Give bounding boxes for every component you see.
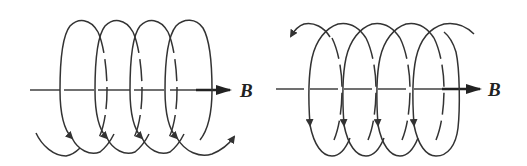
field-label-b: B xyxy=(488,80,501,99)
left-helix-drawing xyxy=(0,0,264,166)
left-helix-figure: B xyxy=(0,0,264,166)
helix-path xyxy=(36,20,234,156)
field-label-b: B xyxy=(240,81,253,100)
right-helix-figure: B xyxy=(264,0,527,166)
